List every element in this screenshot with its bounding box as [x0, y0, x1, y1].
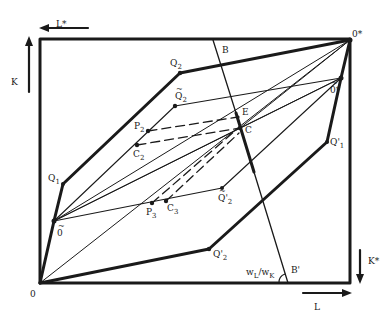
- point-otilde-star: [339, 76, 344, 81]
- label-p3: P3: [146, 208, 157, 220]
- point-p2: [146, 129, 150, 133]
- k-star-arrowhead-icon: [356, 274, 364, 284]
- label-c2: C2: [133, 150, 144, 162]
- label-b: B: [222, 46, 229, 55]
- label-origin-o: 0: [30, 290, 36, 299]
- point-q1-prime: [325, 140, 329, 144]
- edgeworth-box-diagram: [0, 0, 388, 325]
- point-c2: [135, 143, 139, 147]
- label-q2-tilde: ~Q2: [175, 92, 187, 104]
- label-origin-o-tilde-star: ~0*: [330, 86, 340, 95]
- label-l-star: L*: [56, 20, 66, 29]
- label-q1: Q1: [48, 174, 60, 186]
- label-origin-o-star: 0*: [352, 30, 362, 39]
- label-wage-rental-ratio: wL/wK: [246, 268, 274, 280]
- point-q2-prime: [207, 247, 211, 251]
- label-c3: C3: [167, 204, 178, 216]
- label-origin-o-tilde: ~0: [57, 229, 63, 238]
- point-p3: [150, 201, 154, 205]
- k-arrowhead-icon: [25, 36, 33, 46]
- dashed-c3-to-c: [166, 133, 239, 201]
- label-q2: Q2: [170, 59, 182, 71]
- label-e: E: [242, 108, 249, 117]
- label-q2-tilde-prime: ~Q'2: [218, 194, 232, 206]
- l-arrowhead-icon: [342, 289, 352, 297]
- point-q1: [61, 182, 65, 186]
- l-star-arrowhead-icon: [39, 24, 49, 32]
- label-q1-prime: Q'1: [330, 138, 344, 150]
- ray-otilde-to-ostar: [54, 40, 350, 221]
- ray-otildestar-to-c: [240, 78, 341, 128]
- point-q2: [178, 71, 182, 75]
- label-q2-prime: Q'2: [213, 250, 227, 262]
- label-k-star: K*: [368, 257, 379, 266]
- label-k: K: [11, 78, 18, 87]
- label-l: L: [314, 303, 320, 312]
- label-c: C: [245, 126, 252, 135]
- point-otilde: [52, 219, 57, 224]
- point-e: [236, 115, 239, 118]
- label-b-prime: B': [291, 266, 300, 275]
- point-q2-tilde: [173, 104, 177, 108]
- label-p2: P2: [134, 122, 145, 134]
- point-c: [238, 126, 242, 130]
